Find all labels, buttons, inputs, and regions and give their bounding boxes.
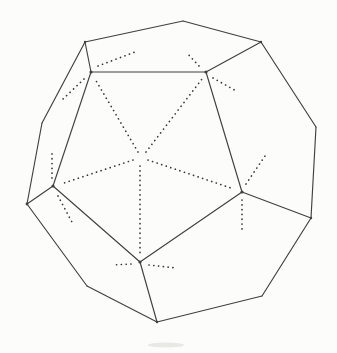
dodecahedron-figure	[0, 0, 337, 353]
page-background	[0, 0, 337, 353]
vertex-dot-front-bottom	[138, 260, 141, 263]
vertex-dot-front-top-left	[89, 70, 92, 73]
vertex-dot-top-right	[260, 41, 262, 43]
vertex-dot-front-left	[51, 184, 54, 187]
vertex-dot-left-lower	[26, 203, 29, 206]
vertex-dot-top-left	[84, 41, 86, 43]
vertex-dot-right-lower	[310, 217, 312, 219]
scan-smudge	[148, 343, 184, 348]
vertex-dot-front-right	[240, 190, 243, 193]
figure-background	[0, 0, 337, 353]
vertex-dot-bottom	[156, 321, 158, 323]
vertex-dot-front-top-right	[204, 70, 207, 73]
